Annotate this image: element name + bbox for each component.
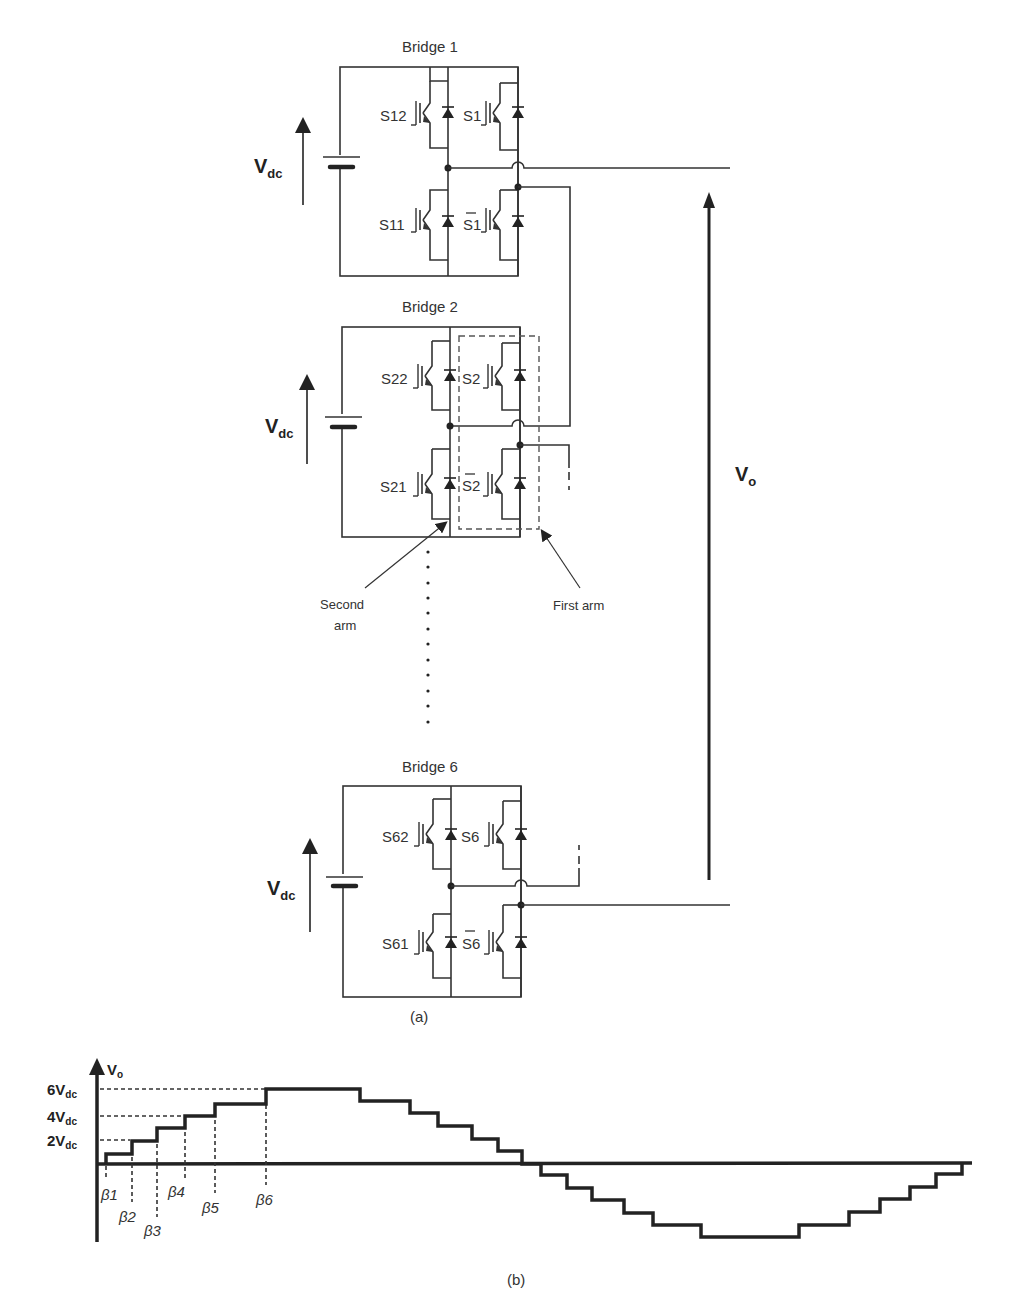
y-axis-label: Vo bbox=[107, 1061, 123, 1080]
vdc-label: Vdc bbox=[265, 415, 294, 441]
dc-source bbox=[322, 155, 362, 169]
switch-s2: S2 bbox=[462, 343, 526, 410]
inverter-figure: Bridge 1 Vdc S12 bbox=[0, 0, 1013, 1310]
bridge-frame bbox=[342, 327, 520, 537]
output-voltage: Vo bbox=[703, 192, 756, 880]
bridge-6: Bridge 6 Vdc S62 S61 bbox=[267, 758, 730, 1025]
svg-text:S1: S1 bbox=[463, 216, 481, 233]
y-tick-4vdc: 4Vdc bbox=[47, 1108, 77, 1127]
beta-5-label: β5 bbox=[201, 1199, 220, 1216]
switch-s1: S1 bbox=[463, 83, 524, 150]
svg-text:S11: S11 bbox=[379, 216, 405, 233]
caption-b: (b) bbox=[507, 1271, 525, 1288]
svg-text:S2: S2 bbox=[462, 477, 480, 494]
bridge-title: Bridge 1 bbox=[402, 38, 458, 55]
continuation-dots bbox=[426, 550, 429, 723]
vo-label: Vo bbox=[735, 463, 756, 489]
switch-s62: S62 bbox=[382, 799, 457, 869]
output-wire-top bbox=[448, 162, 730, 168]
switch-s6: S6 bbox=[461, 801, 527, 869]
bridge-2: Bridge 2 Vdc S22 S21 bbox=[265, 298, 604, 633]
staircase-waveform: Vo 6Vdc 4Vdc 2Vdc β1 β2 β3 β4 β5 β6 bbox=[47, 1058, 972, 1288]
bridge-frame bbox=[343, 786, 521, 997]
switch-s22: S22 bbox=[381, 341, 456, 410]
svg-text:arm: arm bbox=[334, 618, 356, 633]
dc-source bbox=[322, 414, 364, 428]
caption-a: (a) bbox=[410, 1008, 428, 1025]
y-tick-2vdc: 2Vdc bbox=[47, 1132, 77, 1151]
svg-text:S61: S61 bbox=[382, 935, 409, 952]
beta-1-label: β1 bbox=[100, 1186, 118, 1203]
svg-text:S6: S6 bbox=[462, 935, 480, 952]
dc-source bbox=[324, 874, 366, 888]
switch-s61: S61 bbox=[382, 914, 457, 978]
switch-s2-bar: S2 bbox=[462, 449, 526, 519]
first-arm-highlight bbox=[459, 336, 539, 529]
diode-icon bbox=[442, 108, 454, 118]
svg-text:S22: S22 bbox=[381, 370, 408, 387]
svg-text:S21: S21 bbox=[380, 478, 407, 495]
first-arm-arrow-icon bbox=[544, 534, 580, 588]
y-axis-arrow-icon bbox=[89, 1058, 105, 1075]
beta-2-label: β2 bbox=[118, 1208, 137, 1225]
first-arm-label: First arm bbox=[553, 598, 604, 613]
switch-s21: S21 bbox=[380, 449, 456, 519]
bridge-title: Bridge 6 bbox=[402, 758, 458, 775]
bridge-frame bbox=[340, 67, 518, 276]
second-arm-arrow-icon bbox=[365, 525, 443, 588]
vdc-label: Vdc bbox=[254, 155, 283, 181]
switch-s6-bar: S6 bbox=[462, 905, 527, 978]
second-arm-label: Second bbox=[320, 597, 364, 612]
beta-3-label: β3 bbox=[143, 1222, 162, 1239]
switch-s12: S12 bbox=[380, 67, 454, 148]
y-tick-6vdc: 6Vdc bbox=[47, 1081, 77, 1100]
svg-text:S2: S2 bbox=[462, 370, 480, 387]
switch-s11: S11 bbox=[379, 190, 454, 260]
svg-text:S12: S12 bbox=[380, 107, 407, 124]
svg-text:S6: S6 bbox=[461, 828, 479, 845]
vdc-label: Vdc bbox=[267, 877, 296, 903]
beta-6-label: β6 bbox=[255, 1191, 274, 1208]
switch-s1-bar: S1 bbox=[463, 190, 524, 260]
svg-text:S62: S62 bbox=[382, 828, 409, 845]
svg-text:S1: S1 bbox=[463, 107, 481, 124]
beta-4-label: β4 bbox=[167, 1183, 185, 1200]
bridge-title: Bridge 2 bbox=[402, 298, 458, 315]
